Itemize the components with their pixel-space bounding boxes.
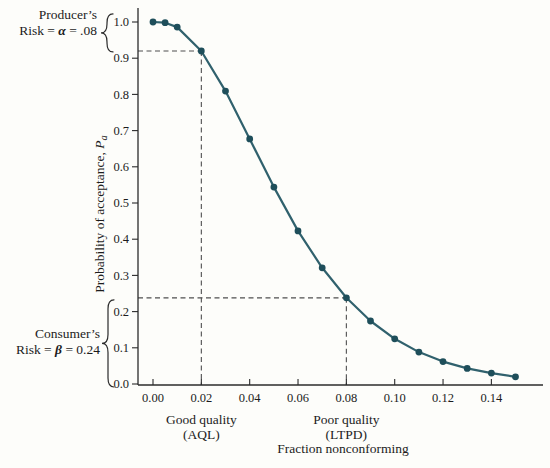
consumers-risk-brace [102, 300, 114, 387]
oc-curve-line [153, 22, 516, 377]
data-point-marker [464, 365, 471, 372]
y-tick-label: 0.8 [113, 88, 129, 102]
data-point-marker [343, 294, 350, 301]
data-point-marker [162, 19, 169, 26]
x-tick-label: 0.14 [480, 391, 503, 405]
aql-label: (AQL) [183, 427, 220, 442]
producers-risk-brace [101, 14, 113, 52]
data-point-marker [319, 264, 326, 271]
y-tick-label: 0.9 [113, 51, 129, 65]
x-tick-label: 0.04 [239, 391, 262, 405]
data-point-marker [488, 370, 495, 377]
data-point-marker [440, 358, 447, 365]
x-tick-label: 0.06 [287, 391, 309, 405]
x-tick-label: 0.12 [432, 391, 454, 405]
consumers-risk-line1: Consumer’s [16, 326, 100, 342]
ltpd-label: Poor quality [313, 412, 380, 427]
consumers-risk-line2: Risk = β = 0.24 [16, 342, 100, 358]
y-tick-label: 0.1 [113, 341, 129, 355]
data-point-marker [246, 136, 253, 143]
y-tick-label: 0.2 [113, 305, 129, 319]
oc-curve-figure: 0.00.10.20.30.40.50.60.70.80.91.00.000.0… [0, 0, 550, 468]
y-tick-label: 1.0 [113, 15, 129, 29]
aql-label: Good quality [166, 412, 237, 427]
chart-canvas: 0.00.10.20.30.40.50.60.70.80.91.00.000.0… [0, 0, 550, 468]
data-point-marker [271, 184, 278, 191]
y-tick-label: 0.4 [113, 232, 129, 246]
data-point-marker [150, 19, 157, 26]
consumers-risk-annotation: Consumer’s Risk = β = 0.24 [16, 326, 100, 357]
ltpd-label: (LTPD) [326, 427, 368, 442]
producers-risk-line1: Producer’s [19, 7, 97, 23]
y-tick-label: 0.5 [113, 196, 129, 210]
data-point-marker [391, 335, 398, 342]
producers-risk-annotation: Producer’s Risk = α = .08 [19, 7, 97, 38]
data-point-marker [222, 88, 229, 95]
producers-risk-line2: Risk = α = .08 [19, 23, 97, 39]
data-point-marker [174, 24, 181, 31]
y-tick-label: 0.3 [113, 269, 129, 283]
y-tick-label: 0.6 [113, 160, 129, 174]
x-tick-label: 0.10 [384, 391, 406, 405]
data-point-marker [512, 373, 519, 380]
y-tick-label: 0.7 [113, 124, 129, 138]
data-point-marker [198, 48, 205, 55]
beta-symbol: β [55, 342, 62, 357]
data-point-marker [367, 318, 374, 325]
alpha-symbol: α [58, 23, 65, 38]
x-tick-label: 0.00 [142, 391, 164, 405]
x-tick-label: 0.02 [190, 391, 212, 405]
x-tick-label: 0.08 [335, 391, 357, 405]
data-point-marker [295, 228, 302, 235]
x-axis-title: Fraction nonconforming [277, 441, 409, 456]
data-point-marker [416, 349, 423, 356]
y-tick-label: 0.0 [113, 377, 129, 391]
y-axis-title: Probability of acceptance, Pa [92, 135, 109, 292]
